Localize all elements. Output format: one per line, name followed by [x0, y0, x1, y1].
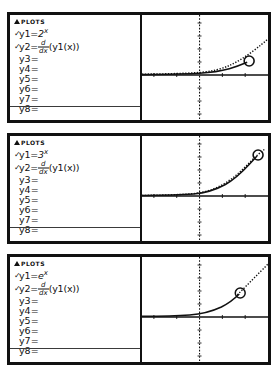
fraction-denominator: dx	[38, 169, 49, 175]
entry-line[interactable]	[12, 350, 138, 360]
function-editor-pane-2: PLOTS ✓y1=3x ✓y2=ddx(y1(x)) y3= y4= y5= …	[10, 136, 142, 241]
equals-sign: =	[30, 270, 38, 281]
derivative-fraction: ddx	[38, 161, 49, 175]
plots-header-2[interactable]: PLOTS	[10, 136, 140, 147]
plots-label: PLOTS	[21, 139, 45, 146]
function-row-y2[interactable]: ✓y2=ddx(y1(x))	[10, 161, 140, 175]
function-row-y1[interactable]: ✓y1=3x	[10, 147, 140, 161]
fraction-denominator: dx	[38, 48, 49, 54]
plots-label: PLOTS	[21, 18, 45, 25]
equals-sign: =	[30, 149, 38, 160]
y-axis-ticks	[198, 265, 202, 356]
checkmark-icon[interactable]: ✓	[14, 28, 19, 39]
function-editor-pane-1: PLOTS ✓y1=2x ✓y2=ddx(y1(x)) y3= y4= y5= …	[10, 15, 142, 120]
entry-line[interactable]	[12, 229, 138, 239]
fraction-numerator: d	[38, 282, 49, 288]
up-triangle-icon	[14, 19, 20, 24]
function-exponent: x	[44, 27, 48, 35]
fraction-numerator: d	[38, 40, 49, 46]
entry-divider	[10, 227, 140, 228]
derivative-argument: (y1(x))	[49, 283, 80, 294]
calculator-screen-1: PLOTS ✓y1=2x ✓y2=ddx(y1(x)) y3= y4= y5= …	[7, 12, 271, 123]
calculator-screen-2: PLOTS ✓y1=3x ✓y2=ddx(y1(x)) y3= y4= y5= …	[7, 133, 271, 244]
plots-header-3[interactable]: PLOTS	[10, 257, 140, 268]
graph-pane-3[interactable]	[142, 257, 268, 362]
checkmark-icon[interactable]: ✓	[14, 283, 19, 294]
function-row-y2[interactable]: ✓y2=ddx(y1(x))	[10, 40, 140, 54]
derivative-fraction: ddx	[38, 282, 49, 296]
up-triangle-icon	[14, 140, 20, 145]
equals-sign: =	[30, 41, 38, 52]
graph-cursor-icon[interactable]	[253, 150, 263, 160]
equals-sign: =	[30, 283, 38, 294]
equals-sign: =	[30, 162, 38, 173]
derivative-argument: (y1(x))	[49, 41, 80, 52]
graph-svg-3	[142, 257, 268, 362]
entry-line[interactable]	[12, 108, 138, 118]
graph-pane-1[interactable]	[142, 15, 268, 120]
function-curve-y1	[142, 294, 239, 316]
function-exponent: x	[44, 148, 48, 156]
checkmark-icon[interactable]: ✓	[14, 41, 19, 52]
fraction-denominator: dx	[38, 290, 49, 296]
function-row-y2[interactable]: ✓y2=ddx(y1(x))	[10, 282, 140, 296]
y-axis-ticks	[198, 23, 202, 114]
derivative-curve-y2	[237, 264, 268, 295]
checkmark-icon[interactable]: ✓	[14, 270, 19, 281]
equals-sign: =	[30, 28, 38, 39]
checkmark-icon[interactable]: ✓	[14, 162, 19, 173]
entry-divider	[10, 348, 140, 349]
plots-label: PLOTS	[21, 260, 45, 267]
function-row-y1[interactable]: ✓y1=ex	[10, 268, 140, 282]
y-axis-ticks	[198, 144, 202, 235]
function-row-y1[interactable]: ✓y1=2x	[10, 26, 140, 40]
calculator-screenshot-stack: PLOTS ✓y1=2x ✓y2=ddx(y1(x)) y3= y4= y5= …	[0, 0, 279, 381]
derivative-fraction: ddx	[38, 40, 49, 54]
function-exponent: x	[44, 269, 48, 277]
derivative-argument: (y1(x))	[49, 162, 80, 173]
graph-cursor-icon[interactable]	[235, 288, 245, 298]
calculator-screen-3: PLOTS ✓y1=ex ✓y2=ddx(y1(x)) y3= y4= y5= …	[7, 254, 271, 365]
checkmark-icon[interactable]: ✓	[14, 149, 19, 160]
graph-cursor-icon[interactable]	[244, 56, 254, 66]
graph-svg-2	[142, 136, 268, 241]
fraction-numerator: d	[38, 161, 49, 167]
function-curve-y1	[142, 62, 247, 74]
up-triangle-icon	[14, 261, 20, 266]
graph-svg-1	[142, 15, 268, 120]
graph-pane-2[interactable]	[142, 136, 268, 241]
function-editor-pane-3: PLOTS ✓y1=ex ✓y2=ddx(y1(x)) y3= y4= y5= …	[10, 257, 142, 362]
plots-header-1[interactable]: PLOTS	[10, 15, 140, 26]
entry-divider	[10, 106, 140, 107]
derivative-curve-y2	[142, 149, 265, 195]
